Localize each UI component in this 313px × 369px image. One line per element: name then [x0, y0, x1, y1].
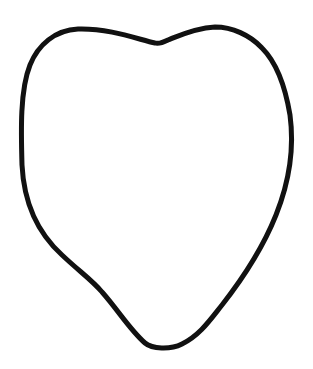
heart-outline-icon: [0, 0, 313, 369]
heart-outline-path: [21, 27, 291, 348]
drawing-canvas: [0, 0, 313, 369]
